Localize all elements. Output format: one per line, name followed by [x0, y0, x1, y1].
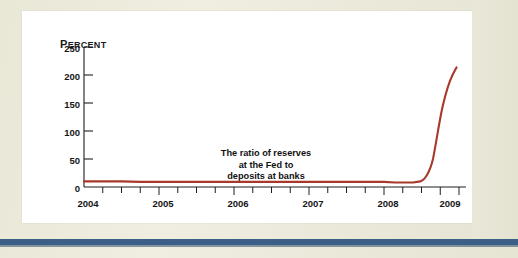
bottom-divider-shadow: [0, 245, 518, 247]
x-minor-tick-marks: [103, 187, 459, 195]
plot-area: [22, 11, 472, 223]
data-series-line: [84, 67, 457, 182]
figure-container: PERCENT 250 200 150 100 50 0 2004 2005 2…: [0, 0, 518, 258]
right-margin-strip: [472, 0, 518, 239]
y-tick-marks: [84, 47, 93, 159]
chart-panel: PERCENT 250 200 150 100 50 0 2004 2005 2…: [22, 11, 472, 223]
